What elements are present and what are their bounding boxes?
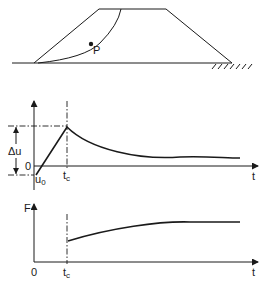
ground-hatch [212, 64, 252, 69]
pp-x-label: t [252, 170, 255, 182]
slip-surface [38, 9, 121, 63]
fs-x-label: t [252, 266, 255, 278]
embankment-outline [34, 9, 232, 63]
delta-u-arrow-up [13, 127, 19, 133]
fs-y-label: F [24, 202, 31, 214]
pore-pressure-plot: Δu 0 u0 tc t [8, 101, 258, 190]
delta-u-arrow-down [13, 168, 19, 174]
embankment-section: P [12, 9, 252, 69]
fs-tc-label: tc [63, 266, 70, 280]
delta-u-label: Δu [8, 145, 21, 157]
pp-tc-label: tc [63, 169, 70, 183]
safety-factor-plot: F 0 tc t [24, 202, 258, 280]
point-p-label: P [93, 44, 100, 56]
safety-factor-curve [68, 222, 240, 241]
fs-origin-label: 0 [31, 266, 37, 278]
diagram-canvas: P Δu 0 u0 tc t F 0 tc [0, 0, 267, 285]
pp-origin-label: 0 [25, 160, 31, 172]
